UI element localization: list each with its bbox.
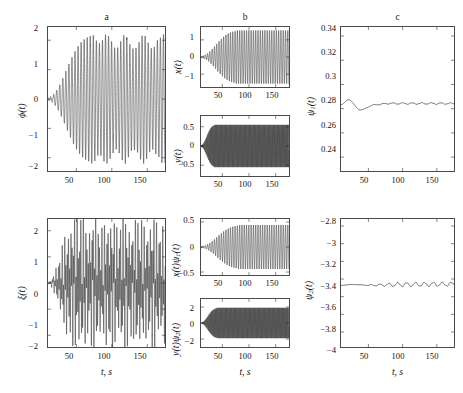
xlabel-col-c: t, s (340, 366, 455, 377)
ytick-y-0: 0 (164, 140, 194, 150)
xtick-phi-150: 150 (127, 175, 153, 185)
plot-xpsi1-canvas (201, 219, 289, 275)
xtick-psi1-150: 150 (419, 175, 445, 185)
plot-y-canvas (201, 116, 289, 176)
ytick-xi-0: 0 (14, 289, 38, 299)
xtick-psi2-100: 100 (385, 351, 411, 361)
ytick-phi-m1: −1 (10, 130, 38, 140)
xtick-ypsi2-100: 100 (232, 351, 258, 361)
xtick-x-100: 100 (232, 90, 258, 100)
panel-title-c: c (340, 12, 455, 22)
plot-phi-canvas (48, 27, 165, 171)
ylabel-xpsi1-sub: 1 (174, 253, 182, 257)
xtick-x-150: 150 (259, 90, 285, 100)
xtick-psi1-100: 100 (385, 175, 411, 185)
ytick-x-0: 0 (170, 51, 194, 61)
plot-psi2 (340, 218, 455, 348)
ytick-psi2-m34: −3.4 (298, 281, 336, 291)
ytick-xi-2: 2 (14, 226, 38, 236)
xtick-phi-100: 100 (91, 175, 117, 185)
ytick-phi-0: 0 (14, 94, 38, 104)
ytick-ypsi2-2: 2 (170, 303, 194, 313)
plot-x-canvas (201, 27, 289, 87)
plot-psi1-canvas (341, 27, 454, 171)
ytick-psi2-m3: −3 (298, 238, 336, 248)
xtick-ypsi2-150: 150 (259, 351, 285, 361)
plot-x (200, 26, 290, 88)
plot-ypsi2 (200, 298, 290, 348)
ytick-psi2-m32: −3.2 (298, 259, 336, 269)
plot-xi (47, 218, 166, 348)
ytick-psi1-028: 0.28 (302, 95, 336, 105)
ytick-x-1: 1 (170, 32, 194, 42)
ytick-psi2-m4: −4 (298, 345, 336, 355)
ytick-xi-m1: −1 (10, 320, 38, 330)
ytick-ypsi2-m2: −2 (166, 336, 194, 346)
ytick-y-05: 0.5 (164, 122, 194, 132)
ytick-xpsi1-m05: −0.5 (160, 268, 194, 278)
ytick-psi1-024: 0.24 (302, 144, 336, 154)
ytick-psi2-m36: −3.6 (298, 302, 336, 312)
xtick-psi1-50: 50 (352, 175, 376, 185)
ytick-xpsi1-0: 0 (164, 242, 194, 252)
ylabel-phi: ϕ(t) (16, 103, 27, 118)
xtick-xpsi1-100: 100 (232, 278, 258, 288)
ytick-phi-1: 1 (14, 59, 38, 69)
ytick-xpsi1-05: 0.5 (164, 215, 194, 225)
xlabel-col-a: t, s (47, 366, 166, 377)
plot-psi2-canvas (341, 219, 454, 347)
xlabel-col-b: t, s (200, 366, 290, 377)
xtick-xpsi1-150: 150 (259, 278, 285, 288)
ytick-y-m05: −0.5 (160, 159, 194, 169)
xtick-y-50: 50 (206, 179, 230, 189)
xtick-y-100: 100 (232, 179, 258, 189)
ytick-psi1-03: 0.3 (302, 71, 336, 81)
ytick-psi1-032: 0.32 (302, 47, 336, 57)
plot-ypsi2-canvas (201, 299, 289, 347)
xtick-phi-50: 50 (57, 175, 81, 185)
ylabel-psi2-text: ψ (303, 294, 314, 300)
xtick-ypsi2-50: 50 (206, 351, 230, 361)
ylabel-psi1-sub: 1 (309, 106, 317, 110)
xtick-psi2-150: 150 (419, 351, 445, 361)
plot-xi-canvas (48, 219, 165, 347)
plot-psi1 (340, 26, 455, 172)
xtick-xpsi1-50: 50 (206, 278, 230, 288)
xtick-xi-100: 100 (91, 351, 117, 361)
ytick-xi-1: 1 (14, 257, 38, 267)
panel-title-a: a (47, 12, 166, 22)
ytick-phi-m2: −2 (10, 161, 38, 171)
plot-y (200, 115, 290, 177)
ytick-x-m1: −1 (166, 71, 194, 81)
xtick-psi2-50: 50 (352, 351, 376, 361)
ylabel-psi1-text: ψ (305, 110, 316, 116)
xtick-xi-150: 150 (127, 351, 153, 361)
xtick-y-150: 150 (259, 179, 285, 189)
ytick-psi1-026: 0.26 (302, 120, 336, 130)
xtick-xi-50: 50 (57, 351, 81, 361)
ytick-phi-2: 2 (14, 23, 38, 33)
ytick-psi2-m28: −2.8 (298, 216, 336, 226)
ytick-psi1-034: 0.34 (302, 23, 336, 33)
figure-canvas: a ϕ(t) 2 1 0 −1 −2 50 100 150 ξ(t) 2 1 0… (0, 0, 463, 393)
panel-title-b: b (200, 12, 290, 22)
ytick-ypsi2-0: 0 (170, 319, 194, 329)
xtick-x-50: 50 (206, 90, 230, 100)
plot-phi (47, 26, 166, 172)
ytick-xi-m2: −2 (10, 341, 38, 351)
ytick-psi2-m38: −3.8 (298, 324, 336, 334)
plot-xpsi1 (200, 218, 290, 276)
